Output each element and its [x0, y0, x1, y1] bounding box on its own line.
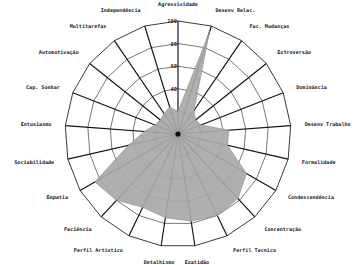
axis-label-condescend-ncia: Condescendência	[288, 194, 334, 200]
axis-label-concentra-o: Concentração	[264, 226, 301, 232]
series-polygon-group	[95, 31, 247, 221]
axis-label-fac-mudan-as: Fac. Mudanças	[250, 23, 290, 29]
axis-label-domin-ncia: Dominância	[296, 84, 327, 90]
axis-label-detalhismo: Detalhismo	[144, 259, 175, 265]
series-polygon-0	[95, 31, 247, 221]
axis-label-paci-ncia: Paciência	[64, 226, 92, 232]
axis-label-perfil-artistico: Perfil Artistico	[74, 247, 123, 253]
axis-label-independ-ncia: Independência	[101, 7, 141, 14]
axis-label-automotiva-o: Automotivação	[39, 49, 79, 55]
axis-label-cap-sonhar: Cap. Sonhar	[26, 84, 60, 91]
radial-tick-label-60: 60	[171, 63, 178, 69]
axis-label-desenv-relac: Desenv Relac.	[215, 7, 255, 13]
axis-label-agressividade: Agressividade	[158, 1, 198, 8]
radial-tick-label-80: 80	[171, 41, 178, 47]
radar-chart-svg: 406080100 AgressividadeDesenv Relac.Fac.…	[0, 0, 358, 265]
axis-label-multitarefas: Multitarefas	[70, 23, 107, 29]
axis-label-entusiasmo: Entusiasmo	[21, 121, 52, 127]
chart-center-point	[175, 131, 180, 136]
radial-tick-labels-group: 406080100	[167, 18, 177, 92]
axis-label-formalidade: Formalidade	[302, 159, 336, 165]
axis-label-desenv-trabalho: Desenv Trabalho	[305, 121, 351, 127]
axis-label-exatid-o: Exatidão	[185, 259, 210, 265]
radar-chart-container: 406080100 AgressividadeDesenv Relac.Fac.…	[0, 0, 358, 265]
radial-tick-label-40: 40	[171, 86, 178, 92]
axis-label-extrovers-o: Extroversão	[277, 49, 311, 55]
radial-tick-label-100: 100	[167, 18, 177, 24]
axis-label-perfil-tecnico: Perfil Tecnico	[233, 247, 276, 253]
axis-label-empatia: Empatia	[47, 194, 68, 201]
axis-label-sociabilidade: Sociabilidade	[14, 159, 54, 165]
